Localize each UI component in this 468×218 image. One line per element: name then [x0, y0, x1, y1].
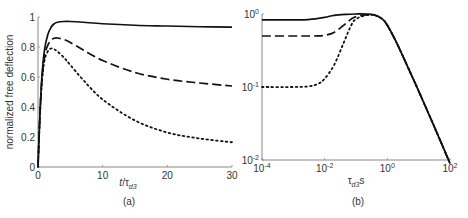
panel-a-caption: (a)	[123, 196, 135, 207]
a-series-dotted	[38, 48, 232, 167]
panel-a-x-axis-label: t/τd3	[119, 177, 136, 190]
panel-b-frequency-response: 10-410-210010210-210-1100 τd3s (b)	[242, 8, 458, 208]
a-y-tick-label: 0.8	[21, 42, 35, 53]
panel-b-caption: (b)	[352, 196, 364, 207]
a-series-solid	[38, 21, 232, 167]
b-x-tick-label: 10-4	[253, 162, 270, 174]
a-x-tick-label: 10	[97, 170, 109, 181]
a-y-tick-label: 0.2	[21, 132, 35, 143]
b-series-dotted	[262, 15, 450, 164]
panel-b-x-axis-label: τd3s	[348, 175, 365, 188]
panel-a-axes	[38, 17, 232, 167]
panel-a-y-axis-label: normalized free deflection	[4, 35, 15, 150]
panel-a-normalized-free-deflection-vs-time: 010203000.20.40.60.81 normalized free de…	[4, 12, 238, 208]
a-x-tick-label: 20	[162, 170, 174, 181]
b-y-tick-label: 100	[244, 8, 259, 20]
a-y-tick-label: 1	[29, 12, 35, 23]
a-x-tick-label: 0	[35, 170, 41, 181]
b-x-tick-label: 10-2	[316, 162, 333, 174]
b-y-tick-label: 10-1	[242, 81, 259, 93]
panel-b-tick-labels: 10-410-210010210-210-1100	[242, 8, 458, 175]
a-y-tick-label: 0.4	[21, 102, 35, 113]
a-y-tick-label: 0	[29, 162, 35, 173]
b-x-tick-label: 100	[380, 162, 395, 174]
panel-a-series	[38, 21, 232, 167]
b-x-tick-label: 102	[442, 162, 457, 174]
a-y-tick-label: 0.6	[21, 72, 35, 83]
a-series-dashed	[38, 38, 232, 167]
b-series-dashed	[262, 15, 450, 164]
figure: 010203000.20.40.60.81 normalized free de…	[0, 0, 468, 218]
panel-b-series	[262, 14, 450, 163]
a-x-tick-label: 30	[226, 170, 238, 181]
panel-a-tick-labels: 010203000.20.40.60.81	[21, 12, 238, 182]
